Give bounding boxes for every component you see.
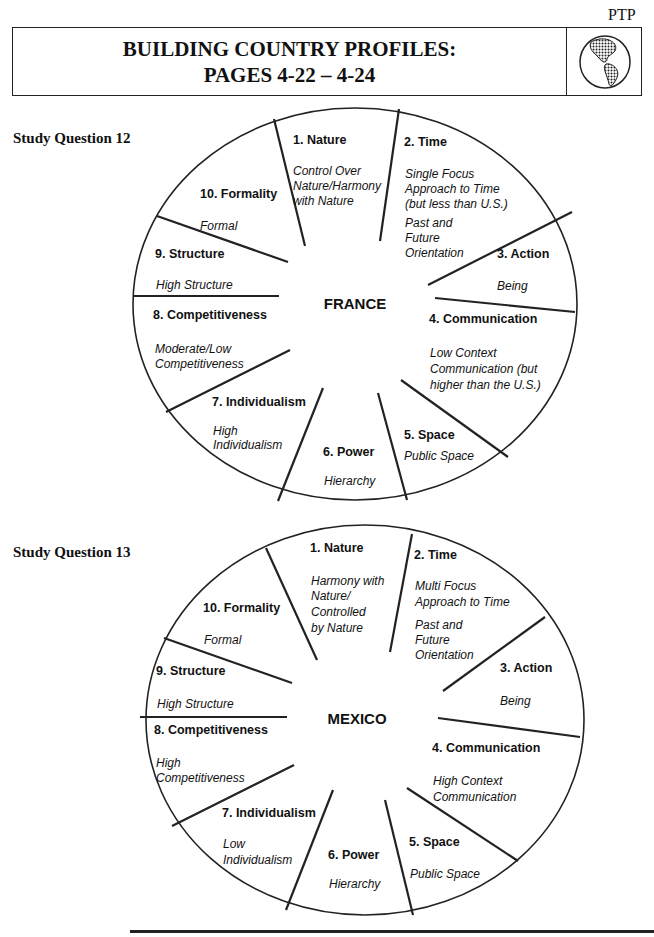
svg-text:Hierarchy: Hierarchy: [324, 474, 376, 488]
svg-text:Individualism: Individualism: [223, 853, 292, 867]
segment-label-action: 3. Action: [497, 247, 549, 261]
svg-text:Low: Low: [223, 837, 246, 851]
svg-text:Hierarchy: Hierarchy: [329, 877, 381, 891]
globe-cell: [566, 28, 642, 95]
svg-text:Formal: Formal: [204, 633, 242, 647]
svg-text:Low Context: Low Context: [430, 346, 497, 360]
segment-label-time: 2. Time: [414, 548, 457, 562]
segment-label-structure: 9. Structure: [155, 247, 225, 261]
segment-label-formality: 10. Formality: [200, 187, 277, 201]
country-name: MEXICO: [327, 710, 387, 727]
svg-text:High: High: [213, 424, 238, 438]
svg-text:Orientation: Orientation: [415, 648, 474, 662]
svg-text:Nature/: Nature/: [311, 589, 352, 603]
segment-label-competitiveness: 8. Competitiveness: [153, 308, 267, 322]
svg-text:Controlled: Controlled: [311, 605, 366, 619]
svg-text:Future: Future: [415, 633, 450, 647]
mexico-wheel: MEXICO 1. Nature Harmony with Nature/ Co…: [0, 520, 654, 930]
segment-label-nature: 1. Nature: [310, 541, 364, 555]
page-title: BUILDING COUNTRY PROFILES: PAGES 4-22 – …: [13, 28, 566, 95]
svg-text:Formal: Formal: [200, 219, 238, 233]
svg-text:with Nature: with Nature: [293, 194, 354, 208]
svg-text:High: High: [156, 756, 181, 770]
segment-label-structure: 9. Structure: [156, 664, 226, 678]
svg-text:Multi Focus: Multi Focus: [415, 579, 476, 593]
segment-label-individualism: 7. Individualism: [212, 395, 306, 409]
svg-text:Harmony with: Harmony with: [311, 574, 385, 588]
ptp-label: PTP: [608, 6, 636, 24]
svg-text:Public Space: Public Space: [410, 867, 480, 881]
segment-label-nature: 1. Nature: [293, 133, 347, 147]
svg-text:Communication (but: Communication (but: [430, 362, 538, 376]
segment-label-power: 6. Power: [323, 445, 375, 459]
segment-label-competitiveness: 8. Competitiveness: [154, 723, 268, 737]
svg-text:Competitiveness: Competitiveness: [155, 357, 244, 371]
svg-text:High Structure: High Structure: [156, 278, 233, 292]
title-line-1: BUILDING COUNTRY PROFILES:: [123, 36, 456, 62]
svg-text:Future: Future: [405, 231, 440, 245]
segment-label-space: 5. Space: [404, 428, 455, 442]
segment-label-space: 5. Space: [409, 835, 460, 849]
svg-text:High Structure: High Structure: [157, 697, 234, 711]
segment-label-communication: 4. Communication: [432, 741, 540, 755]
header-box: BUILDING COUNTRY PROFILES: PAGES 4-22 – …: [12, 27, 642, 96]
segment-label-action: 3. Action: [500, 661, 552, 675]
svg-text:High Context: High Context: [433, 774, 503, 788]
globe-icon: [577, 33, 633, 91]
segment-label-communication: 4. Communication: [429, 312, 537, 326]
footer-rule: [130, 930, 654, 933]
segment-label-formality: 10. Formality: [203, 601, 280, 615]
svg-text:Communication: Communication: [433, 790, 517, 804]
svg-text:Single Focus: Single Focus: [405, 167, 474, 181]
svg-text:Being: Being: [497, 279, 528, 293]
svg-text:Nature/Harmony: Nature/Harmony: [293, 179, 382, 193]
svg-text:Past and: Past and: [405, 216, 453, 230]
svg-text:Competitiveness: Competitiveness: [156, 771, 245, 785]
svg-text:Orientation: Orientation: [405, 246, 464, 260]
country-name: FRANCE: [324, 295, 387, 312]
svg-text:(but less than U.S.): (but less than U.S.): [405, 197, 508, 211]
france-wheel: FRANCE 1. Nature Control Over Nature/Har…: [0, 100, 654, 510]
segment-label-time: 2. Time: [404, 135, 447, 149]
svg-text:Moderate/Low: Moderate/Low: [155, 342, 232, 356]
segment-label-power: 6. Power: [328, 848, 380, 862]
svg-text:Past and: Past and: [415, 618, 463, 632]
svg-text:Approach to Time: Approach to Time: [404, 182, 500, 196]
svg-text:Individualism: Individualism: [213, 438, 282, 452]
segment-label-individualism: 7. Individualism: [222, 806, 316, 820]
svg-text:Public Space: Public Space: [404, 449, 474, 463]
svg-text:Control Over: Control Over: [293, 164, 362, 178]
title-line-2: PAGES 4-22 – 4-24: [204, 62, 376, 88]
svg-text:Being: Being: [500, 694, 531, 708]
svg-text:Approach to Time: Approach to Time: [414, 595, 510, 609]
svg-text:higher than the U.S.): higher than the U.S.): [430, 378, 541, 392]
svg-text:by Nature: by Nature: [311, 621, 363, 635]
